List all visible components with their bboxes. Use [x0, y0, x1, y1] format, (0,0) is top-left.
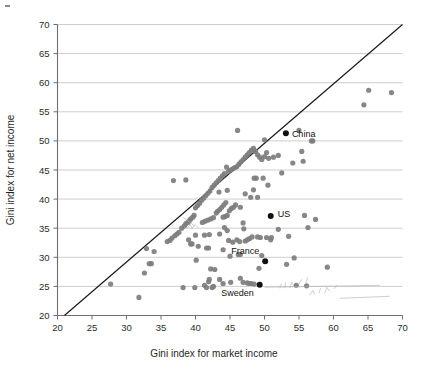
data-point [193, 233, 198, 238]
y-tick-label-60: 60 [39, 77, 50, 88]
corner-scan-artifact [5, 5, 10, 7]
data-point [256, 266, 261, 271]
data-point [207, 277, 212, 282]
data-point [264, 150, 269, 155]
y-tick-label-50: 50 [39, 135, 50, 146]
x-tick-label-30: 30 [121, 322, 132, 333]
x-tick-label-40: 40 [190, 322, 201, 333]
data-point [268, 237, 273, 242]
data-point [252, 281, 257, 286]
y-tick-label-25: 25 [39, 281, 50, 292]
data-point [249, 234, 254, 239]
y-tick-label-40: 40 [39, 194, 50, 205]
data-point [152, 249, 157, 254]
data-point [211, 215, 216, 220]
x-tick-label-50: 50 [259, 322, 270, 333]
x-tick-label-65: 65 [363, 322, 374, 333]
x-axis-title: Gini index for market income [150, 348, 278, 359]
data-point [325, 265, 330, 270]
y-tick-label-55: 55 [39, 106, 50, 117]
data-point [292, 255, 297, 260]
highlighted-point-china [283, 130, 289, 136]
data-point [233, 202, 238, 207]
data-point [290, 160, 295, 165]
data-point [189, 241, 194, 246]
data-point [206, 245, 211, 250]
data-point [192, 213, 197, 218]
data-point [223, 200, 228, 205]
data-point [243, 191, 248, 196]
data-point [255, 195, 260, 200]
data-point [235, 128, 240, 133]
data-point [209, 285, 214, 290]
data-point [180, 285, 185, 290]
data-point [192, 285, 197, 290]
data-point [237, 239, 242, 244]
scatter-chart-figure: 2025303540455055606570 20253035404550556… [0, 0, 428, 367]
data-point [241, 226, 246, 231]
highlighted-point-sweden [257, 282, 263, 288]
x-tick-label-25: 25 [87, 322, 98, 333]
x-tick-label-70: 70 [397, 322, 408, 333]
y-axis-title: Gini index for net income [5, 114, 16, 225]
data-point [228, 280, 233, 285]
data-point [225, 228, 230, 233]
data-point [186, 237, 191, 242]
y-tick-label-30: 30 [39, 252, 50, 263]
data-point [149, 261, 154, 266]
data-point [279, 170, 284, 175]
data-point [207, 232, 212, 237]
data-point [221, 247, 226, 252]
y-tick-label-65: 65 [39, 48, 50, 59]
data-point [301, 159, 306, 164]
data-point [183, 177, 188, 182]
data-point [202, 233, 207, 238]
data-point [304, 283, 309, 288]
data-point [259, 253, 264, 258]
data-point [284, 262, 289, 267]
data-point [221, 281, 226, 286]
annotation-label-france: France [231, 246, 259, 256]
data-point [225, 213, 230, 218]
data-point [212, 267, 217, 272]
data-point [258, 235, 263, 240]
annotation-label-us: US [278, 209, 291, 219]
data-point [305, 225, 310, 230]
data-point [299, 149, 304, 154]
data-point [238, 205, 243, 210]
data-point [225, 188, 230, 193]
data-point [217, 231, 222, 236]
data-point [251, 187, 256, 192]
x-tick-label-20: 20 [52, 322, 63, 333]
data-point [136, 295, 141, 300]
data-point [366, 88, 371, 93]
y-tick-label-45: 45 [39, 165, 50, 176]
data-point [204, 285, 209, 290]
annotation-label-china: China [292, 129, 316, 139]
data-point [216, 190, 221, 195]
data-point [276, 227, 281, 232]
x-tick-label-35: 35 [156, 322, 167, 333]
annotation-label-sweden: Sweden [221, 288, 254, 298]
data-point [144, 246, 149, 251]
x-tick-label-55: 55 [294, 322, 305, 333]
x-tick-label-45: 45 [225, 322, 236, 333]
data-point [389, 90, 394, 95]
data-point [313, 217, 318, 222]
x-tick-label-60: 60 [328, 322, 339, 333]
data-point [214, 210, 219, 215]
data-point [286, 234, 291, 239]
data-point [248, 195, 253, 200]
data-point [265, 183, 270, 188]
data-point [266, 156, 271, 161]
data-point [108, 281, 113, 286]
data-point [171, 178, 176, 183]
highlighted-point-us [268, 213, 274, 219]
y-tick-label-70: 70 [39, 19, 50, 30]
y-tick-label-20: 20 [39, 310, 50, 321]
data-point [241, 220, 246, 225]
data-point [194, 258, 199, 263]
highlighted-point-france [262, 258, 268, 264]
data-point [302, 213, 307, 218]
y-tick-label-35: 35 [39, 223, 50, 234]
